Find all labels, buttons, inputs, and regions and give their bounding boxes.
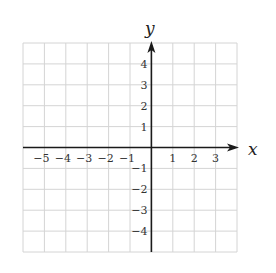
- x-tick-label: −4: [55, 152, 71, 165]
- y-tick-label: 2: [140, 100, 147, 113]
- axes: [23, 41, 239, 252]
- y-tick-label: 1: [140, 121, 147, 134]
- y-tick-label: 3: [140, 79, 147, 92]
- y-tick-label: 4: [140, 58, 147, 71]
- coordinate-plane: −5−4−3−2−1123 −4−3−2−11234 x y: [0, 0, 276, 273]
- x-tick-label: 2: [191, 152, 198, 165]
- x-axis-title: x: [248, 139, 258, 159]
- y-tick-label: −1: [131, 162, 147, 175]
- x-tick-label: 3: [212, 152, 219, 165]
- y-tick-label: −3: [131, 204, 147, 217]
- y-axis-title: y: [144, 18, 155, 38]
- x-tick-label: −5: [33, 152, 49, 165]
- y-tick-label: −2: [131, 183, 147, 196]
- x-tick-label: −2: [97, 152, 113, 165]
- x-tick-label: −3: [76, 152, 92, 165]
- y-tick-label: −4: [131, 225, 147, 238]
- x-tick-labels: −5−4−3−2−1123: [33, 152, 219, 165]
- x-tick-label: 1: [169, 152, 176, 165]
